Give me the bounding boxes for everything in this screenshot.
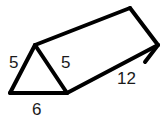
edge-label-length: 12: [117, 70, 136, 87]
edge-label-base: 6: [32, 101, 41, 118]
prism-drawing: [0, 0, 168, 123]
edge-label-right-side: 5: [61, 54, 70, 71]
triangular-prism-figure: 5 5 6 12: [0, 0, 168, 123]
edge-label-left-side: 5: [9, 54, 18, 71]
